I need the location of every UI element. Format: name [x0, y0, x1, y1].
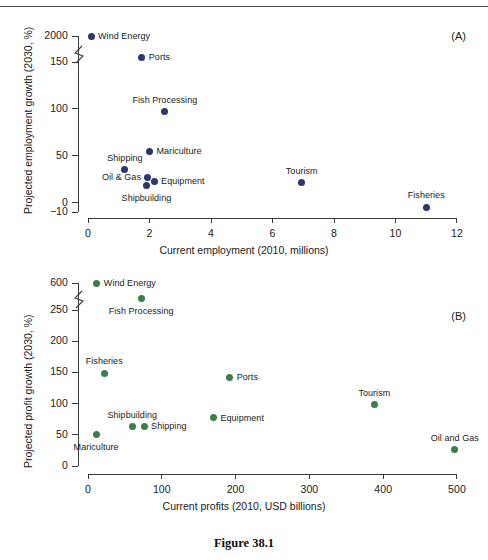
- panel-b-point-label: Shipbuilding: [107, 410, 157, 420]
- panel-b-y-tick: [72, 372, 78, 373]
- panel-b-y-axis-title: Projected profit growth (2030, %): [22, 315, 34, 469]
- panel-a-x-tick: [149, 218, 150, 223]
- panel-a-data-point: [138, 54, 145, 61]
- panel-b-x-tick-label: 200: [211, 483, 261, 495]
- panel-a-data-point: [88, 33, 95, 40]
- panel-a-data-point: [298, 179, 305, 186]
- panel-a-x-axis-end-cap: [456, 218, 457, 223]
- panel-b-point-label: Oil and Gas: [431, 433, 479, 443]
- panel-b-x-tick: [161, 474, 162, 479]
- panel-b-profit-scatter: 6002502001501005000100200300400500Curren…: [0, 272, 488, 530]
- panel-a-y-tick: [72, 155, 78, 156]
- panel-a-y-tick: [72, 108, 78, 109]
- panel-a-data-point: [161, 108, 168, 115]
- panel-a-point-label: Wind Energy: [98, 31, 150, 41]
- panel-b-point-label: Equipment: [220, 413, 263, 423]
- panel-a-point-label: Fish Processing: [132, 95, 197, 105]
- panel-a-point-label: Oil & Gas: [102, 172, 141, 182]
- panel-b-data-point: [226, 374, 233, 381]
- panel-a-x-tick-label: 0: [63, 227, 113, 239]
- panel-b-x-tick-label: 100: [137, 483, 187, 495]
- panel-b-data-point: [129, 423, 136, 430]
- panel-b-point-label: Fish Processing: [109, 306, 174, 316]
- panel-b-y-tick: [72, 283, 78, 284]
- panel-b-x-tick: [383, 474, 384, 479]
- panel-b-y-tick: [72, 403, 78, 404]
- top-divider-rule: [0, 6, 488, 7]
- panel-b-label: (B): [451, 310, 466, 322]
- panel-a-point-label: Shipping: [107, 153, 142, 163]
- panel-b-x-axis-end-cap: [88, 474, 89, 479]
- panel-a-label: (A): [451, 30, 466, 42]
- figure-caption: Figure 38.1: [0, 536, 488, 551]
- panel-b-point-label: Wind Energy: [104, 278, 156, 288]
- panel-a-x-tick-label: 8: [309, 227, 359, 239]
- panel-a-point-label: Fisheries: [408, 190, 445, 200]
- panel-b-point-label: Mariculture: [74, 442, 119, 452]
- panel-b-y-tick-label: 250: [20, 303, 68, 315]
- panel-b-x-tick-label: 400: [358, 483, 408, 495]
- panel-a-x-tick-label: 6: [248, 227, 298, 239]
- panel-a-data-point: [143, 182, 150, 189]
- panel-a-x-tick-label: 12: [432, 227, 482, 239]
- panel-b-x-tick: [309, 474, 310, 479]
- panel-b-x-tick: [235, 474, 236, 479]
- panel-a-y-axis-title: Projected employment growth (2030, %): [22, 27, 34, 214]
- panel-b-x-axis-end-cap: [456, 474, 457, 479]
- panel-b-x-axis-title: Current profits (2010, USD billions): [0, 500, 488, 512]
- panel-a-x-axis-end-cap: [88, 218, 89, 223]
- panel-b-y-tick: [72, 434, 78, 435]
- panel-a-x-tick-label: 4: [186, 227, 236, 239]
- panel-b-data-point: [371, 401, 378, 408]
- panel-b-x-tick-label: 0: [63, 483, 113, 495]
- panel-b-y-tick-label: 600: [20, 276, 68, 288]
- panel-b-y-tick: [72, 466, 78, 467]
- panel-a-y-axis-break-icon: [71, 45, 87, 67]
- panel-b-data-point: [210, 414, 217, 421]
- panel-a-x-tick: [211, 218, 212, 223]
- panel-a-x-tick: [272, 218, 273, 223]
- panel-a-point-label: Equipment: [161, 176, 204, 186]
- panel-a-x-tick-label: 2: [125, 227, 175, 239]
- panel-a-y-tick: [72, 202, 78, 203]
- panel-a-point-label: Shipbuilding: [122, 193, 172, 203]
- panel-b-x-tick-label: 500: [432, 483, 482, 495]
- panel-a-y-tick: [72, 36, 78, 37]
- panel-b-data-point: [101, 370, 108, 377]
- figure-page: 2000150100500−10024681012Current employm…: [0, 0, 488, 560]
- panel-b-point-label: Ports: [237, 372, 258, 382]
- panel-a-x-tick: [395, 218, 396, 223]
- panel-b-y-axis-break-icon: [71, 290, 87, 312]
- panel-b-point-label: Fisheries: [86, 356, 123, 366]
- panel-a-employment-scatter: 2000150100500−10024681012Current employm…: [0, 14, 488, 276]
- panel-a-data-point: [151, 178, 158, 185]
- panel-b-data-point: [141, 423, 148, 430]
- panel-b-point-label: Shipping: [151, 421, 186, 431]
- panel-a-x-axis-title: Current employment (2010, millions): [0, 244, 488, 256]
- panel-b-data-point: [451, 446, 458, 453]
- panel-a-x-tick: [334, 218, 335, 223]
- panel-a-data-point: [146, 148, 153, 155]
- panel-b-data-point: [93, 431, 100, 438]
- panel-a-data-point: [423, 204, 430, 211]
- panel-b-data-point: [93, 280, 100, 287]
- panel-b-point-label: Tourism: [358, 388, 390, 398]
- panel-a-point-label: Tourism: [286, 166, 318, 176]
- panel-a-point-label: Ports: [149, 52, 170, 62]
- panel-b-x-axis-line: [88, 474, 457, 475]
- panel-a-y-tick: [72, 212, 78, 213]
- panel-a-x-tick-label: 10: [371, 227, 421, 239]
- panel-b-data-point: [138, 295, 145, 302]
- panel-b-y-tick: [72, 341, 78, 342]
- panel-a-point-label: Mariculture: [157, 146, 202, 156]
- panel-b-x-tick-label: 300: [284, 483, 334, 495]
